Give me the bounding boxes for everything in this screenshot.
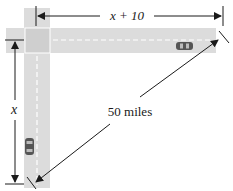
intersection: [25, 28, 50, 53]
hypotenuse-top-tick: [219, 31, 229, 43]
vertical-distance-label: x: [10, 102, 18, 117]
horizontal-distance-label: x + 10: [109, 8, 145, 23]
hypotenuse-distance-label: 50 miles: [108, 104, 152, 119]
road-triangle-diagram: x + 10 x 50 miles: [0, 0, 233, 191]
car-east-icon: [176, 42, 193, 50]
vertical-road-stub: [24, 8, 50, 28]
car-south-icon: [25, 138, 34, 155]
